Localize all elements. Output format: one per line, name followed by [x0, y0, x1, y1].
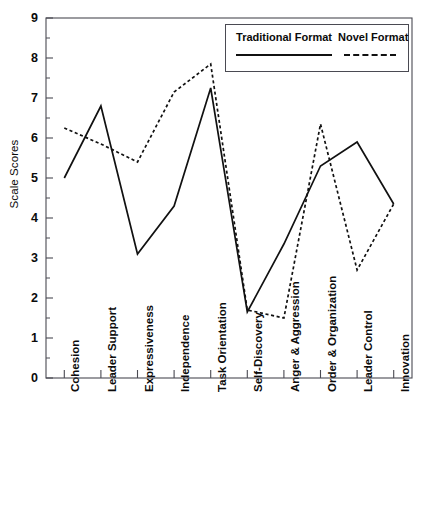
chart-legend: Traditional Format Novel Format [225, 24, 409, 72]
plot-area [0, 0, 425, 514]
line-chart: Scale Scores 0123456789 CohesionLeader S… [0, 0, 425, 514]
legend-swatch-dashed-line [338, 52, 402, 58]
legend-entry-novel-format: Novel Format [338, 31, 402, 58]
series-line-traditional-format [64, 88, 393, 312]
legend-swatch-solid-line [236, 52, 332, 58]
series-line-novel-format [64, 64, 393, 318]
legend-label-novel-format: Novel Format [338, 31, 402, 43]
legend-entry-traditional-format: Traditional Format [236, 31, 332, 58]
y-axis-ticks [46, 18, 53, 378]
x-axis-ticks [64, 370, 393, 378]
legend-label-traditional-format: Traditional Format [236, 31, 332, 43]
